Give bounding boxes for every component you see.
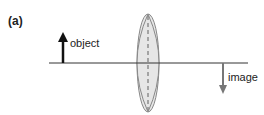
image-arrow-head — [219, 85, 227, 94]
image-label: image — [228, 71, 258, 83]
lens-diagram — [0, 0, 264, 115]
object-arrow-head — [58, 32, 68, 42]
object-label: object — [70, 37, 99, 49]
panel-label: (a) — [8, 14, 23, 28]
